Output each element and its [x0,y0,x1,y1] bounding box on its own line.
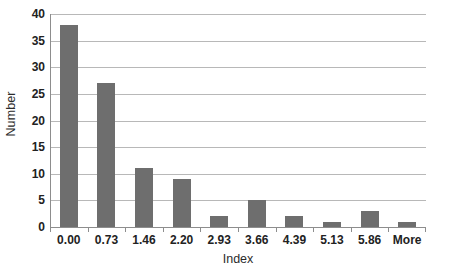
plot-area [50,14,426,227]
y-axis-tick-label: 0 [38,221,45,233]
x-axis-tick-label: 0.73 [95,233,118,247]
y-axis-tick-labels: 0510152025303540 [22,14,48,227]
x-axis-tick-label: 1.46 [132,233,155,247]
y-axis-tick-label: 40 [32,8,45,20]
x-axis-tick [88,227,89,232]
y-axis-tick-label: 10 [32,168,45,180]
x-axis-tick-label: 3.66 [245,233,268,247]
x-axis-tick-labels: 0.000.731.462.202.933.664.395.135.86More [50,233,426,251]
bar [210,216,228,227]
bar [248,200,266,227]
bar [60,25,78,227]
x-axis-title: Index [50,252,426,266]
x-axis-tick-label: 4.39 [283,233,306,247]
y-axis-tick-label: 35 [32,35,45,47]
x-axis-tick [351,227,352,232]
y-axis-title-label: Number [4,91,18,136]
x-axis-tick-label: 2.20 [170,233,193,247]
x-axis-tick-label: 2.93 [208,233,231,247]
x-axis-tick [125,227,126,232]
x-axis-tick [238,227,239,232]
x-axis-tick [200,227,201,232]
y-axis-tick-label: 15 [32,141,45,153]
x-axis-tick-label: 5.13 [320,233,343,247]
histogram-chart: Number 0510152025303540 0.000.731.462.20… [0,0,455,275]
x-axis-tick [276,227,277,232]
x-axis-tick-label: More [393,233,422,247]
bar [135,168,153,227]
y-axis-tick-label: 25 [32,88,45,100]
x-axis-tick-label: 0.00 [57,233,80,247]
x-axis-tick-label: 5.86 [358,233,381,247]
bar [361,211,379,227]
bar [285,216,303,227]
y-axis-tick-label: 5 [38,194,45,206]
x-axis-tick [50,227,51,232]
x-axis-tick [425,227,426,232]
y-axis-tick-label: 30 [32,61,45,73]
y-axis-title: Number [0,0,22,228]
x-axis-tick [388,227,389,232]
bar [97,83,115,227]
bars [50,14,426,227]
bar [173,179,191,227]
y-axis-tick-label: 20 [32,115,45,127]
x-axis-tick [163,227,164,232]
x-axis-tick [313,227,314,232]
x-axis-ticks [50,227,426,232]
